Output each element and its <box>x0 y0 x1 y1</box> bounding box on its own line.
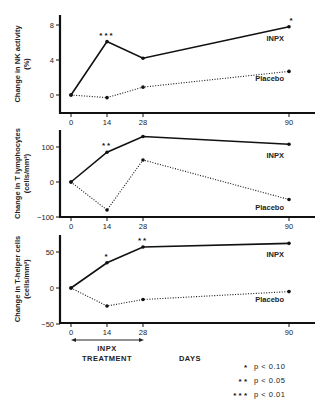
x-tick-label: 0 <box>69 328 73 337</box>
y-axis-label: (%) <box>22 58 31 70</box>
y-axis-label: Change in NK activity <box>13 25 22 103</box>
x-tick-label: 0 <box>69 222 73 231</box>
data-point <box>141 245 145 249</box>
y-axis-label: (cells/mm³) <box>22 153 31 193</box>
data-point <box>141 135 145 139</box>
x-tick-label: 28 <box>139 222 147 231</box>
data-point <box>69 286 73 290</box>
arrow-right-icon <box>139 338 144 342</box>
chart-panel-2: −10001000142890Change in T lymphocytes(c… <box>13 128 315 231</box>
significance-marker: ** <box>102 141 112 150</box>
significance-marker: * <box>289 16 294 25</box>
x-tick-label: 28 <box>139 118 147 127</box>
y-tick-label: 0 <box>50 284 54 293</box>
data-point <box>287 25 291 29</box>
significance-legend: * p < 0.10 * * p < 0.05 * * * p < 0.01 <box>233 362 285 400</box>
y-tick-label: 0 <box>50 91 54 100</box>
data-point <box>141 158 145 162</box>
legend-text-1: p < 0.10 <box>254 362 285 371</box>
data-point <box>69 93 73 97</box>
y-tick-label: 50 <box>46 248 54 257</box>
y-tick-label: 100 <box>41 143 54 152</box>
x-axis-label: DAYS <box>179 354 201 363</box>
y-tick-label: 4 <box>50 56 54 65</box>
chart-panel-3: −500500142890Change in T-helper cells(ce… <box>13 235 315 337</box>
y-tick-label: 0 <box>50 178 54 187</box>
x-tick-label: 90 <box>285 118 293 127</box>
treatment-label-line1: INPX <box>97 344 117 353</box>
data-point <box>141 56 145 60</box>
series-label-inpx: INPX <box>266 250 284 259</box>
y-axis-label: Change in T lymphocytes <box>13 128 22 219</box>
significance-marker: *** <box>99 31 114 40</box>
significance-marker: * <box>104 252 109 261</box>
figure: 0480142890Change in NK activity(%)****IN… <box>0 0 329 407</box>
data-point <box>287 142 291 146</box>
y-tick-label: −50 <box>41 320 54 329</box>
data-point <box>69 180 73 184</box>
y-tick-label: −100 <box>37 213 54 222</box>
treatment-label-line2: TREATMENT <box>82 354 132 363</box>
legend-text-2: p < 0.05 <box>254 376 285 385</box>
data-point <box>141 298 145 302</box>
data-point <box>105 304 109 308</box>
data-point <box>287 242 291 246</box>
chart-panels: 0480142890Change in NK activity(%)****IN… <box>13 15 315 337</box>
y-axis-label: (cells/mm³) <box>22 259 31 299</box>
data-point <box>105 208 109 212</box>
y-tick-label: 8 <box>50 21 54 30</box>
legend-marker-2: * * <box>239 377 248 386</box>
y-axis-label: Change in T-helper cells <box>13 236 22 322</box>
chart-panel-1: 0480142890Change in NK activity(%)****IN… <box>13 15 315 127</box>
legend-marker-1: * <box>244 363 248 372</box>
series-label-inpx: INPX <box>266 151 284 160</box>
series-line-inpx <box>71 243 289 288</box>
series-label-placebo: Placebo <box>255 295 284 304</box>
series-label-placebo: Placebo <box>255 203 284 212</box>
x-tick-label: 14 <box>103 118 111 127</box>
arrow-left-icon <box>71 338 76 342</box>
data-point <box>105 261 109 265</box>
treatment-annotation: INPX TREATMENT DAYS <box>71 338 201 363</box>
series-label-placebo: Placebo <box>255 74 284 83</box>
x-tick-label: 90 <box>285 328 293 337</box>
data-point <box>105 40 109 44</box>
data-point <box>105 96 109 100</box>
data-point <box>141 85 145 89</box>
data-point <box>105 150 109 154</box>
series-label-inpx: INPX <box>266 34 284 43</box>
x-tick-label: 14 <box>103 328 111 337</box>
data-point <box>287 198 291 202</box>
significance-marker: ** <box>138 236 148 245</box>
x-tick-label: 14 <box>103 222 111 231</box>
legend-text-3: p < 0.01 <box>254 390 285 399</box>
legend-marker-3: * * * <box>233 391 248 400</box>
x-tick-label: 90 <box>285 222 293 231</box>
data-point <box>287 290 291 294</box>
x-tick-label: 0 <box>69 118 73 127</box>
data-point <box>287 70 291 74</box>
x-tick-label: 28 <box>139 328 147 337</box>
